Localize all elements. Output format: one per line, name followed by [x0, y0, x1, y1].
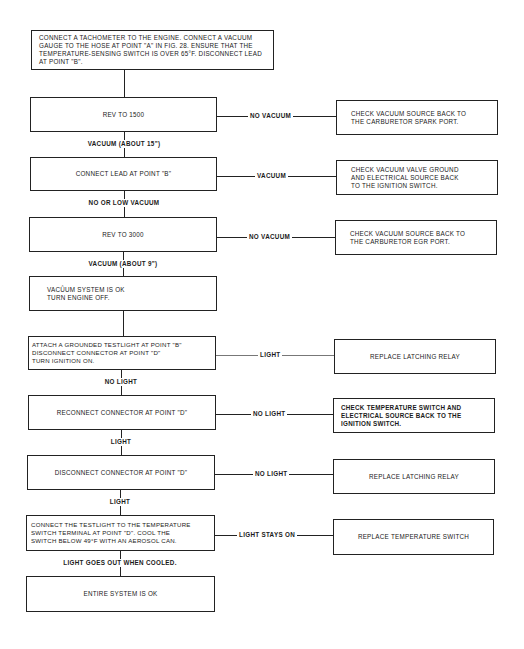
connector-line — [123, 311, 124, 336]
flow-label-light-goes-out: LIGHT GOES OUT WHEN COOLED. — [61, 559, 178, 567]
result-check-spark-port: CHECK VACUUM SOURCE BACK TO THE CARBURET… — [336, 100, 498, 135]
result-check-valve-ground: CHECK VACUUM VALVE GROUND AND ELECTRICAL… — [336, 160, 498, 195]
flow-label-no-light: NO LIGHT — [103, 378, 139, 386]
step-disconnect-connector-d: DISCONNECT CONNECTOR AT POINT "D" — [27, 455, 215, 490]
step-text: REV TO 3000 — [102, 231, 144, 239]
step-text: RECONNECT CONNECTOR AT POINT "D" — [57, 409, 188, 417]
result-text: REPLACE TEMPERATURE SWITCH — [358, 533, 469, 541]
result-text: CHECK VACUUM SOURCE BACK TO THE CARBURET… — [351, 110, 466, 126]
result-text: REPLACE LATCHING RELAY — [369, 473, 459, 481]
step-text: ENTIRE SYSTEM IS OK — [83, 590, 157, 598]
result-text: REPLACE LATCHING RELAY — [370, 353, 460, 361]
step-attach-testlight: ATTACH A GROUNDED TESTLIGHT AT POINT "B"… — [28, 336, 216, 370]
flow-label-no-or-low-vacuum: NO OR LOW VACUUM — [87, 199, 162, 207]
result-text: CHECK VACUUM VALVE GROUND AND ELECTRICAL… — [351, 166, 459, 190]
step-rev-1500: REV TO 1500 — [30, 97, 217, 132]
result-replace-latching-relay: REPLACE LATCHING RELAY — [334, 339, 496, 374]
step-rev-3000: REV TO 3000 — [29, 217, 217, 252]
step-text: REV TO 1500 — [103, 111, 145, 119]
branch-label-no-light: NO LIGHT — [253, 470, 289, 478]
connector-line — [124, 70, 125, 97]
step-text: VACÛUM SYSTEM IS OK TURN ENGINE OFF. — [47, 286, 125, 302]
result-text: CHECK VACUUM SOURCE BACK TO THE CARBURET… — [350, 230, 465, 246]
result-replace-latching-relay-2: REPLACE LATCHING RELAY — [333, 459, 495, 494]
branch-label-no-vacuum: NO VACUUM — [247, 233, 292, 241]
start-box-text: CONNECT A TACHOMETER TO THE ENGINE. CONN… — [39, 34, 262, 66]
step-text: CONNECT THE TESTLIGHT TO THE TEMPERATURE… — [31, 521, 191, 545]
result-replace-temperature-switch: REPLACE TEMPERATURE SWITCH — [333, 519, 494, 555]
branch-label-no-light: NO LIGHT — [251, 410, 287, 418]
result-text: CHECK TEMPERATURE SWITCH AND ELECTRICAL … — [341, 404, 461, 428]
result-check-temperature-switch: CHECK TEMPERATURE SWITCH AND ELECTRICAL … — [333, 398, 495, 433]
step-text: CONNECT LEAD AT POINT "B" — [76, 170, 172, 178]
flow-label-light: LIGHT — [108, 498, 132, 506]
step-entire-system-ok: ENTIRE SYSTEM IS OK — [26, 576, 215, 612]
flow-label-vacuum-9: VACUUM (ABOUT 9") — [87, 260, 160, 268]
branch-label-light: LIGHT — [258, 351, 282, 359]
step-reconnect-connector-d: RECONNECT CONNECTOR AT POINT "D" — [28, 395, 216, 430]
step-vacuum-system-ok: VACÛUM SYSTEM IS OK TURN ENGINE OFF. — [29, 276, 217, 311]
step-text: ATTACH A GROUNDED TESTLIGHT AT POINT "B"… — [32, 341, 182, 365]
branch-label-vacuum: VACUUM — [255, 172, 288, 180]
result-check-egr-port: CHECK VACUUM SOURCE BACK TO THE CARBURET… — [335, 220, 497, 255]
step-text: DISCONNECT CONNECTOR AT POINT "D" — [55, 469, 188, 477]
flow-label-light: LIGHT — [109, 438, 133, 446]
branch-label-no-vacuum: NO VACUUM — [248, 112, 293, 120]
start-box: CONNECT A TACHOMETER TO THE ENGINE. CONN… — [31, 30, 274, 70]
branch-label-light-stays-on: LIGHT STAYS ON — [237, 531, 297, 539]
step-connect-testlight-temp-switch: CONNECT THE TESTLIGHT TO THE TEMPERATURE… — [26, 515, 215, 551]
step-connect-lead-b: CONNECT LEAD AT POINT "B" — [30, 157, 217, 191]
flow-label-vacuum-15: VACUUM (ABOUT 15") — [86, 140, 163, 148]
